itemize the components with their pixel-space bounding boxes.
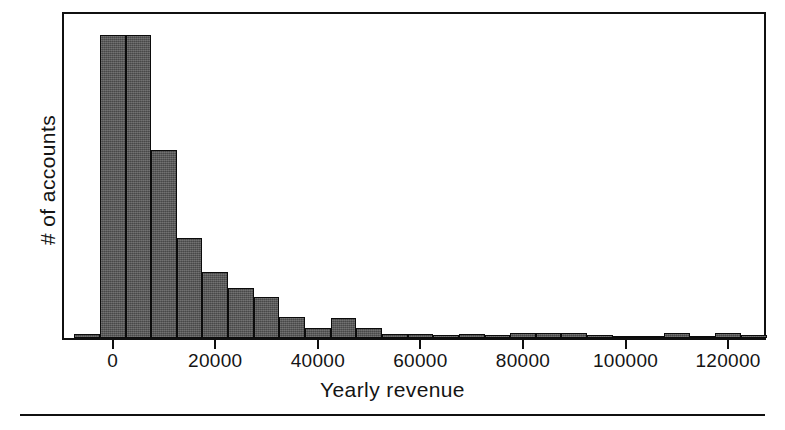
histogram-bar — [433, 335, 459, 338]
histogram-bar — [74, 334, 100, 338]
x-axis-tick-label: 80000 — [496, 350, 550, 372]
histogram-bar — [177, 238, 203, 338]
histogram-figure: # of accounts 02000040000600008000010000… — [0, 0, 785, 430]
x-axis-tick-label: 60000 — [393, 350, 447, 372]
y-axis-title: # of accounts — [36, 60, 60, 300]
histogram-bar — [459, 334, 485, 338]
histogram-bar — [126, 35, 152, 338]
x-axis-tick — [727, 340, 729, 349]
histogram-bar — [331, 318, 357, 338]
x-axis-tick-label: 100000 — [593, 350, 658, 372]
histogram-bar — [485, 335, 511, 338]
histogram-bar — [279, 317, 305, 338]
footer-rule — [20, 414, 765, 416]
histogram-bar — [202, 272, 228, 338]
histogram-bar — [228, 288, 254, 339]
x-axis-tick — [214, 340, 216, 349]
histogram-bar — [510, 333, 536, 338]
plot-frame — [62, 12, 766, 340]
histogram-bar — [638, 336, 664, 338]
histogram-bar — [382, 334, 408, 338]
histogram-bar — [408, 334, 434, 338]
x-axis-tick — [522, 340, 524, 349]
histogram-bar — [305, 328, 331, 338]
x-axis-title: Yearly revenue — [0, 378, 785, 402]
histogram-bar — [536, 333, 562, 338]
histogram-bar — [561, 333, 587, 338]
histogram-bar — [664, 333, 690, 338]
histogram-bar — [151, 150, 177, 338]
x-axis-tick — [625, 340, 627, 349]
histogram-bar — [100, 35, 126, 338]
histogram-bar — [356, 328, 382, 338]
histogram-bar — [254, 297, 280, 338]
x-axis-tick-label: 120000 — [695, 350, 760, 372]
x-axis-tick-label: 20000 — [188, 350, 242, 372]
x-axis-tick — [317, 340, 319, 349]
histogram-bar — [587, 335, 613, 338]
histogram-bar — [613, 336, 639, 338]
histogram-bar — [715, 333, 741, 338]
x-axis-tick-label: 40000 — [291, 350, 345, 372]
x-axis-tick — [112, 340, 114, 349]
x-axis-tick-label: 0 — [107, 350, 118, 372]
x-axis-tick — [419, 340, 421, 349]
histogram-bar — [690, 336, 716, 338]
histogram-bars — [64, 14, 764, 338]
histogram-bar — [741, 335, 767, 338]
